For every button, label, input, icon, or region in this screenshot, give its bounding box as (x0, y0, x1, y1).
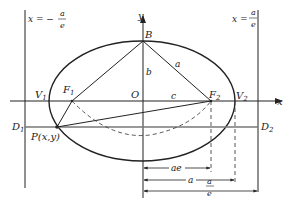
label-dim-a-over-e-den: e (207, 189, 212, 198)
label-point-p: P(x,y) (30, 131, 60, 142)
label-directrix-right-num: a (251, 8, 256, 17)
label-directrix-right: x = (232, 14, 247, 24)
point-f1 (71, 100, 73, 102)
dashed-arc (72, 101, 211, 136)
point-f2 (210, 100, 212, 102)
label-x-axis: x (277, 96, 283, 107)
label-d1: D1 (11, 121, 25, 134)
ellipse-diagram: x = − a e x = a e y x B b a O c V1 F1 F2… (0, 0, 290, 211)
segment-p-f1 (57, 101, 72, 127)
point-p (55, 125, 59, 129)
label-a-length: a (175, 59, 180, 69)
label-b-point: B (144, 29, 152, 40)
label-y-axis: y (137, 10, 144, 21)
label-f1: F1 (62, 84, 74, 97)
label-directrix-left-den: e (60, 21, 65, 30)
label-c-length: c (171, 91, 176, 101)
label-b-length: b (146, 67, 152, 77)
label-origin: O (131, 89, 139, 100)
label-dim-a: a (188, 175, 193, 185)
label-d2: D2 (260, 121, 274, 134)
label-v1: V1 (35, 89, 47, 102)
label-dim-a-over-e-num: a (207, 177, 212, 186)
label-directrix-left: x = − (28, 14, 54, 24)
label-dim-ae: ae (171, 163, 182, 173)
segment-b-f2 (143, 41, 211, 101)
label-directrix-right-den: e (251, 20, 256, 29)
segment-p-f2 (57, 101, 211, 127)
label-directrix-left-num: a (60, 9, 65, 18)
